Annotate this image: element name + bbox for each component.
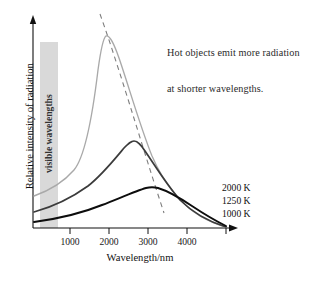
curve-1000-k xyxy=(34,187,226,226)
annotation-note-line-1: Hot objects emit more radiation xyxy=(167,47,300,59)
x-axis-ticks xyxy=(70,228,226,234)
y-axis-title: Relative intensity of radiation xyxy=(24,26,37,226)
x-axis-title: Wavelength/nm xyxy=(60,252,220,265)
peak-locus-dashed-line xyxy=(100,14,164,213)
x-tick-label-3000: 3000 xyxy=(128,236,168,247)
series-label-1000-k: 1000 K xyxy=(222,208,251,219)
series-label-2000-k: 2000 K xyxy=(222,182,251,193)
annotation-note: Hot objects emit more radiation at short… xyxy=(167,23,300,119)
x-tick-label-1000: 1000 xyxy=(50,236,90,247)
visible-wavelengths-label: visible wavelengths xyxy=(43,59,54,209)
x-tick-label-2000: 2000 xyxy=(89,236,129,247)
annotation-note-line-2: at shorter wavelengths. xyxy=(167,83,300,95)
series-label-1250-k: 1250 K xyxy=(222,195,251,206)
curve-1250-k xyxy=(34,141,226,227)
x-tick-label-4000: 4000 xyxy=(167,236,207,247)
blackbody-radiation-figure: Relative intensity of radiation visible … xyxy=(0,0,336,288)
x-axis xyxy=(33,225,238,234)
